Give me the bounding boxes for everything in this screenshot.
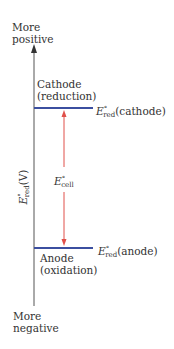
more-positive-label: More positive: [12, 21, 54, 45]
more-negative-line2: negative: [13, 322, 59, 334]
y-axis-label: E°red(V): [17, 167, 31, 207]
cathode-potential-sub: red: [103, 111, 115, 119]
cathode-potential-label: E°red(cathode): [96, 103, 166, 121]
y-axis-unit: (V): [17, 170, 29, 186]
more-positive-line2: positive: [12, 33, 54, 45]
cell-arrowhead-down-icon: [62, 239, 67, 246]
more-negative-label: More negative: [13, 310, 59, 334]
cell-arrowhead-up-icon: [62, 110, 67, 117]
anode-label-line2: (oxidation): [40, 264, 97, 276]
more-positive-line1: More: [12, 21, 54, 33]
cathode-potential-suffix: (cathode): [115, 105, 166, 117]
more-negative-line1: More: [13, 310, 59, 322]
anode-potential-suffix: (anode): [117, 245, 157, 257]
cathode-label-line1: Cathode: [37, 78, 96, 90]
cathode-label: Cathode (reduction): [37, 78, 96, 102]
anode-potential-label: E°red(anode): [98, 243, 158, 261]
anode-label: Anode (oxidation): [40, 252, 97, 276]
cell-potential-sub: cell: [61, 181, 74, 189]
cell-potential-label: E°cell: [54, 173, 74, 191]
y-axis-E: E: [17, 197, 29, 205]
anode-potential-sub: red: [105, 251, 117, 259]
y-axis-sub: red: [23, 185, 31, 197]
axis-arrowhead-icon: [31, 44, 37, 53]
anode-label-line1: Anode: [40, 252, 97, 264]
cathode-label-line2: (reduction): [37, 90, 96, 102]
